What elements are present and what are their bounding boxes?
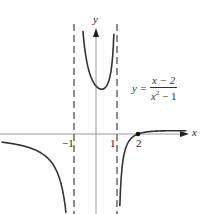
tick-label-2: 2 <box>136 138 142 149</box>
equation-lhs: y = <box>132 82 147 94</box>
tick-label-neg1: −1 <box>62 138 74 149</box>
curve-right-branch <box>120 131 187 206</box>
y-axis-arrow-icon <box>93 28 99 37</box>
equation-numerator: x − 2 <box>150 74 177 88</box>
curve-left-branch <box>2 142 67 213</box>
equation-label: y = x − 2 x2 − 1 <box>132 74 177 102</box>
x-axis-label: x <box>192 127 197 138</box>
den-rest: − 1 <box>159 90 176 102</box>
curve-middle-branch <box>83 31 114 89</box>
function-graph <box>0 0 208 214</box>
x-axis-arrow-icon <box>180 131 189 137</box>
y-axis-label: y <box>93 14 98 25</box>
x-intercept-point <box>136 132 141 137</box>
equation-fraction: x − 2 x2 − 1 <box>150 74 177 102</box>
tick-label-1: 1 <box>110 138 116 149</box>
equation-denominator: x2 − 1 <box>151 88 177 102</box>
